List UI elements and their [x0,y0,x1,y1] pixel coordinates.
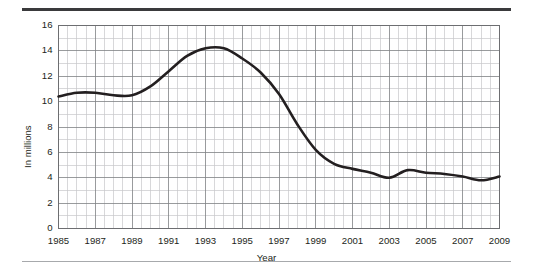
x-tick-label: 1985 [39,236,79,246]
x-tick-label: 2005 [406,236,446,246]
y-tick-label: 14 [31,45,53,55]
y-tick-label: 0 [31,223,53,233]
y-tick-label: 12 [31,71,53,81]
y-tick-label: 6 [31,147,53,157]
x-tick-label: 1995 [222,236,262,246]
chart-figure: 0246810121416 19851987198919911993199519… [0,0,533,278]
x-axis-title: Year [0,252,533,263]
x-tick-label: 2007 [443,236,483,246]
x-tick-label: 1991 [149,236,189,246]
x-tick-label: 1997 [259,236,299,246]
x-tick-label: 2003 [369,236,409,246]
x-tick-label: 1999 [296,236,336,246]
x-tick-label: 2001 [333,236,373,246]
x-tick-label: 2009 [480,236,520,246]
x-tick-label: 1987 [75,236,115,246]
y-tick-label: 10 [31,96,53,106]
y-tick-label: 8 [31,122,53,132]
y-tick-label: 2 [31,198,53,208]
y-tick-label: 4 [31,172,53,182]
y-tick-label: 16 [31,20,53,30]
x-tick-label: 1989 [112,236,152,246]
y-axis-title: In millions [22,125,33,168]
x-tick-label: 1993 [186,236,226,246]
